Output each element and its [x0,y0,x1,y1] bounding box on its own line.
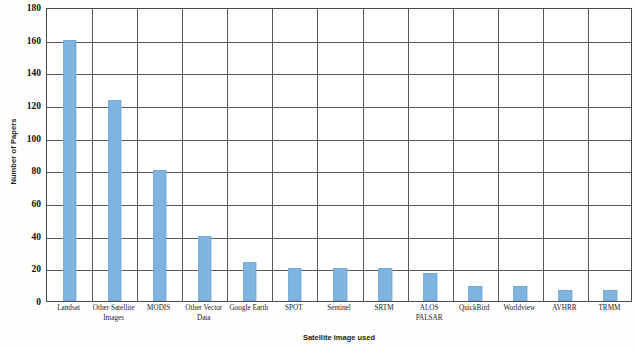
y-axis-title-text: Number of Papers [9,118,18,184]
bar[interactable] [468,286,482,301]
bar[interactable] [604,290,618,301]
x-axis-tick-label: MODIS [136,304,181,314]
bar-cell [543,9,588,301]
bar[interactable] [198,236,212,301]
bar-cell [363,9,408,301]
x-axis-tick-label: QuickBird [452,304,497,314]
x-axis-tick-label: ALOS PALSAR [407,304,452,323]
bar[interactable] [333,268,347,301]
bar[interactable] [288,268,302,301]
bar-cell [588,9,633,301]
bar[interactable] [153,170,167,301]
y-axis-tick-label: 100 [27,134,41,144]
bar[interactable] [378,268,392,301]
y-axis-tick-label: 0 [36,297,41,307]
y-axis-tick-label: 160 [27,36,41,46]
bar-chart: Number of Papers 02040608010012014016018… [0,0,635,349]
x-axis-tick-label: TRMM [587,304,632,314]
bar-cell [498,9,543,301]
bar-cell [47,9,92,301]
y-axis-tick-label: 20 [32,264,42,274]
bars-layer [47,9,631,301]
bar-cell [182,9,227,301]
bar[interactable] [243,262,257,301]
x-axis-tick-label: Landsat [46,304,91,314]
bar-cell [272,9,317,301]
bar[interactable] [423,273,437,301]
x-axis-tick-label: Worldview [497,304,542,314]
bar-cell [227,9,272,301]
x-axis-tick-label: Other Satellite Images [91,304,136,323]
bar-cell [317,9,362,301]
x-axis-tick-label: SRTM [362,304,407,314]
x-axis-tick-label: SPOT [271,304,316,314]
bar-cell [408,9,453,301]
x-axis-title: Satellite image used [46,333,632,342]
bar-cell [453,9,498,301]
y-axis-tick-label: 180 [27,3,41,13]
plot-area [46,8,632,302]
x-axis-tick-label: AVHRR [542,304,587,314]
x-axis-tick-label: Other Vector Data [181,304,226,323]
y-axis-tick-label: 120 [27,101,41,111]
y-axis-tick-label: 60 [32,199,42,209]
bar[interactable] [559,290,573,301]
bar-cell [137,9,182,301]
x-axis-tick-label: Sentinel [316,304,361,314]
y-axis-tick-label: 140 [27,68,41,78]
y-axis-tick-label: 80 [32,166,42,176]
y-axis-tick-label: 40 [32,232,42,242]
bar[interactable] [63,40,77,301]
bar[interactable] [108,100,122,301]
x-axis-tick-label: Google Earth [226,304,271,314]
bar[interactable] [514,286,528,301]
bar-cell [92,9,137,301]
y-axis-tick-labels: 020406080100120140160180 [18,8,44,302]
